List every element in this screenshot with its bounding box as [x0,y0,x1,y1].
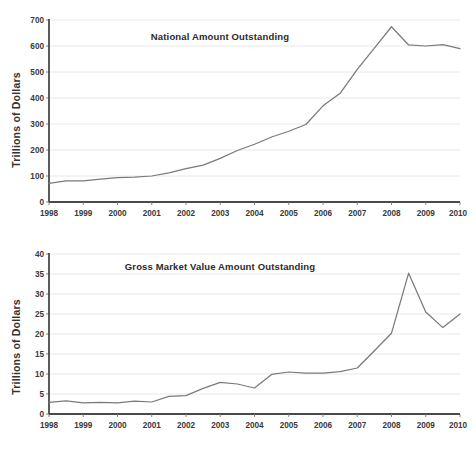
y-tick-40: 40 [35,250,45,259]
x-tick-2002: 2002 [177,209,196,218]
x-tick-1998: 1998 [40,421,59,430]
x-tick-2009: 2009 [417,421,436,430]
x-tick-1999: 1999 [74,209,93,218]
series-line-national-amount [49,27,460,184]
x-tick-2008: 2008 [382,209,401,218]
y-tick-400: 400 [30,94,44,103]
chart-top-svg: Trillions of Dollars 700 600 500 400 300… [0,0,476,232]
y-tick-700: 700 [30,16,44,25]
y-tick-labels-bottom: 40 35 30 25 20 15 10 5 0 [35,250,45,419]
x-tick-2005: 2005 [280,421,299,430]
y-tick-25: 25 [35,310,45,319]
y-axis-label-bottom: Trillions of Dollars [10,299,22,395]
x-tick-1998: 1998 [40,209,59,218]
x-tick-2009: 2009 [417,209,436,218]
y-tick-10: 10 [35,370,45,379]
y-tick-500: 500 [30,68,44,77]
x-tick-2001: 2001 [143,209,162,218]
y-tick-35: 35 [35,270,45,279]
x-tick-2010: 2010 [449,421,468,430]
x-tick-2010: 2010 [449,209,468,218]
x-tick-2005: 2005 [280,209,299,218]
gridlines-bottom [49,254,460,394]
y-tick-600: 600 [30,42,44,51]
x-tick-2008: 2008 [382,421,401,430]
x-tick-2007: 2007 [348,421,367,430]
x-tick-1999: 1999 [74,421,93,430]
x-tick-2004: 2004 [245,421,264,430]
x-tick-labels-top: 1998 1999 2000 2001 2002 2003 2004 2005 … [40,209,468,218]
y-tick-200: 200 [30,146,44,155]
y-tick-15: 15 [35,350,45,359]
y-tick-20: 20 [35,330,45,339]
x-tick-2003: 2003 [211,209,230,218]
y-tick-300: 300 [30,120,44,129]
x-tick-2001: 2001 [143,421,162,430]
x-tick-2004: 2004 [245,209,264,218]
x-tick-2000: 2000 [108,421,127,430]
chart-title-bottom: Gross Market Value Amount Outstanding [125,261,316,272]
series-line-gross-market-value [49,273,460,403]
y-axis-label-top: Trillions of Dollars [10,72,22,168]
x-tick-2007: 2007 [348,209,367,218]
chart-national-amount-outstanding: Trillions of Dollars 700 600 500 400 300… [0,0,476,232]
y-tick-0: 0 [39,410,44,419]
y-tick-100: 100 [30,172,44,181]
x-tick-2006: 2006 [314,421,333,430]
x-tick-2002: 2002 [177,421,196,430]
gridlines-top [49,20,460,176]
figure-container: Trillions of Dollars 700 600 500 400 300… [0,0,476,454]
x-tick-2003: 2003 [211,421,230,430]
chart-gross-market-value-amount-outstanding: Trillions of Dollars 40 35 30 25 20 15 [0,232,476,454]
x-tick-2000: 2000 [108,209,127,218]
x-tick-2006: 2006 [314,209,333,218]
chart-title-top: National Amount Outstanding [151,31,289,42]
y-tick-0: 0 [39,198,44,207]
y-tick-30: 30 [35,290,45,299]
y-tick-5: 5 [39,390,44,399]
chart-bottom-svg: Trillions of Dollars 40 35 30 25 20 15 [0,232,476,454]
x-tick-labels-bottom: 1998 1999 2000 2001 2002 2003 2004 2005 … [40,421,468,430]
y-tick-labels-top: 700 600 500 400 300 200 100 0 [30,16,44,207]
